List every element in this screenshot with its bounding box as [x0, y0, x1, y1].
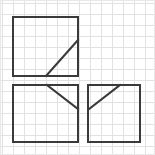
figure-canvas [0, 0, 155, 155]
figure-svg [0, 0, 155, 155]
